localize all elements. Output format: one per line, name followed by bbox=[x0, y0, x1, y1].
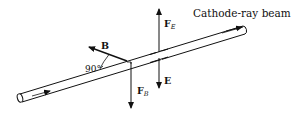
angle-arc bbox=[100, 55, 109, 69]
tube-right-end bbox=[243, 26, 247, 34]
tube-left-end bbox=[16, 93, 23, 103]
beam-arrow-left-icon bbox=[32, 91, 50, 96]
angle-label: 90° bbox=[85, 64, 101, 74]
beam-arrow-right-icon bbox=[226, 27, 242, 31]
electric-field-label: E bbox=[164, 75, 171, 86]
magnetic-field-label: B bbox=[101, 40, 109, 51]
cathode-ray-diagram: Cathode-ray beam FE B 90° E FB bbox=[0, 0, 292, 116]
right-angle-mark bbox=[127, 62, 131, 64]
tube-lower-edge bbox=[22, 34, 245, 102]
force-magnetic-label: FB bbox=[137, 85, 149, 98]
beam-label: Cathode-ray beam bbox=[193, 7, 291, 19]
force-electric-label: FE bbox=[164, 18, 176, 31]
